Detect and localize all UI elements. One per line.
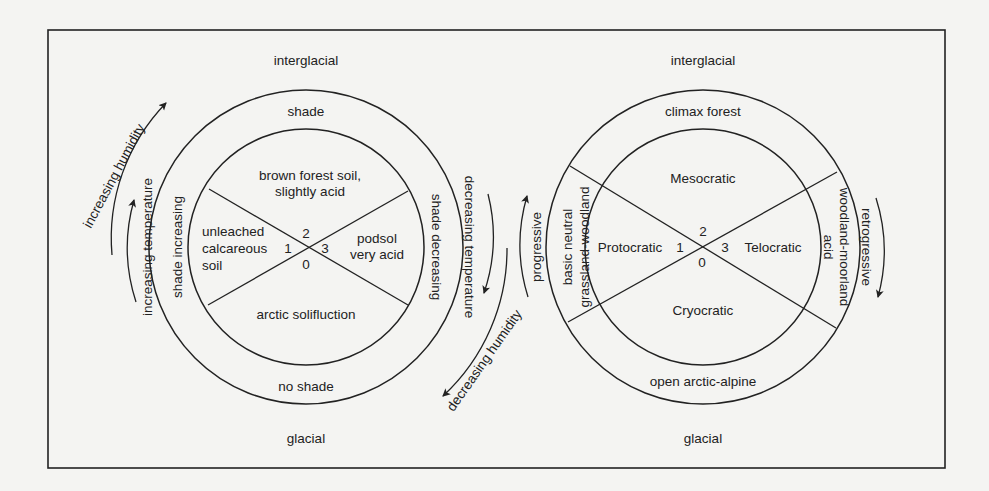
stage-1: 1 — [284, 241, 292, 256]
ring-label-woodland-moorland: woodland-moorland — [837, 187, 852, 307]
ring-label-acid: acid — [821, 235, 836, 260]
retrogressive-arrow — [876, 198, 884, 297]
sector-unleached-line3: soil — [202, 258, 222, 273]
soil-cycle: interglacial glacial shade no shade shad… — [80, 53, 525, 446]
sector-telocratic: Telocratic — [744, 240, 801, 255]
increasing-temperature-label: increasing temperature — [140, 178, 155, 316]
stage-1: 1 — [676, 240, 684, 255]
ring-label-climax-forest: climax forest — [665, 104, 741, 119]
increasing-temperature-arrow — [127, 200, 136, 302]
ring-label-shade-increasing: shade increasing — [170, 196, 185, 298]
sector-podsol-line2: very acid — [350, 247, 404, 262]
stage-3: 3 — [721, 240, 729, 255]
sector-unleached-line2: calcareous — [202, 241, 268, 256]
progressive-arrow — [520, 196, 528, 297]
stage-0: 0 — [698, 255, 706, 270]
ring-label-no-shade: no shade — [278, 379, 334, 394]
glacial-label: glacial — [684, 431, 722, 446]
increasing-humidity-label: increasing humidity — [80, 121, 148, 230]
retrogressive-label: retrogressive — [859, 208, 874, 286]
sector-cryocratic: Cryocratic — [673, 303, 734, 318]
sector-unleached-line1: unleached — [202, 224, 264, 239]
ring-label-shade-decreasing: shade decreasing — [429, 194, 444, 301]
vegetation-cycle: interglacial glacial climax forest open … — [520, 53, 884, 446]
sector-brown-forest-soil-line2: slightly acid — [275, 184, 345, 199]
glacial-label: glacial — [287, 431, 325, 446]
ring-label-basic-neutral: basic neutral — [560, 209, 575, 286]
interglacial-label: interglacial — [671, 53, 736, 68]
sector-brown-forest-soil-line1: brown forest soil, — [259, 168, 361, 183]
sector-mesocratic: Mesocratic — [670, 171, 736, 186]
ring-label-shade: shade — [288, 104, 325, 119]
ring-label-open-arctic-alpine: open arctic-alpine — [650, 374, 757, 389]
decreasing-temperature-label: decreasing temperature — [462, 176, 477, 319]
outer-ring — [149, 90, 463, 404]
glacial-cycle-diagram: interglacial glacial shade no shade shad… — [0, 0, 989, 491]
stage-0: 0 — [302, 257, 310, 272]
stage-3: 3 — [321, 241, 329, 256]
decreasing-temperature-arrow — [484, 194, 493, 293]
sector-protocratic: Protocratic — [598, 240, 663, 255]
sector-arctic-solifluction: arctic solifluction — [256, 307, 355, 322]
progressive-label: progressive — [529, 212, 544, 282]
decreasing-humidity-label: decreasing humidity — [444, 307, 525, 414]
ring-label-grassland-woodland: grassland-woodland — [577, 187, 592, 308]
interglacial-label: interglacial — [274, 53, 339, 68]
sector-podsol-line1: podsol — [357, 231, 397, 246]
stage-2: 2 — [699, 224, 707, 239]
stage-2: 2 — [302, 226, 310, 241]
